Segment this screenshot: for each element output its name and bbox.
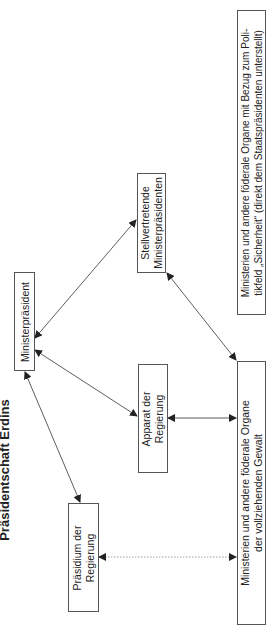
node-label: tikfeld „Sicherheit“ (direkt dem Staatsp…	[252, 28, 265, 296]
node-praesidium: Präsidium der Regierung	[68, 503, 99, 612]
edge-mp-apparat	[35, 350, 137, 416]
node-label: Regierung	[84, 525, 97, 590]
edge-mp-stellvertretende	[35, 220, 136, 338]
node-ministerien-sicherheit: Ministerien und andere föderale Organe m…	[237, 10, 266, 315]
node-apparat: Apparat der Regierung	[138, 364, 168, 473]
node-label: Regierung	[153, 391, 166, 446]
node-ministerien-vollziehend: Ministerien und andere föderale Organe d…	[237, 361, 266, 625]
diagram-title: Präsidentschaft Erdins	[0, 399, 12, 541]
node-label: Präsidium der	[71, 525, 84, 590]
node-label: Apparat der	[140, 391, 153, 446]
node-label: Ministerpräsident	[18, 282, 31, 362]
node-label: Ministerien und andere föderale Organe	[239, 400, 252, 586]
node-label: Ministerpräsidenten	[152, 177, 165, 269]
node-label: Ministerien und andere föderale Organe m…	[239, 28, 252, 296]
edge-stellvertretende-ministerien	[167, 273, 236, 360]
edge-mp-praesidium	[25, 372, 80, 502]
node-label: der vollziehenden Gewalt	[252, 400, 265, 586]
node-label: Stellvertretende	[139, 177, 152, 269]
connector-layer	[0, 0, 277, 642]
node-stellvertretende: Stellvertretende Ministerpräsidenten	[137, 173, 166, 273]
node-ministerpraesident: Ministerpräsident	[14, 272, 35, 371]
